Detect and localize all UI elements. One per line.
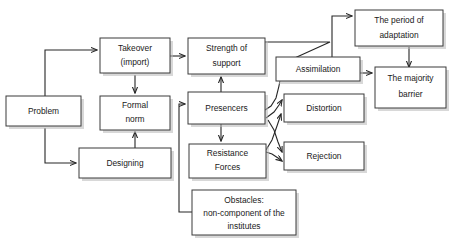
edge-presencers-distortion — [266, 100, 282, 118]
node-takeover-label-2: (import) — [121, 57, 150, 67]
node-formal-norm-label-2: norm — [125, 114, 144, 124]
node-presencers-label-1: Presencers — [205, 103, 247, 113]
node-presencers[interactable]: Presencers — [188, 92, 268, 127]
node-takeover[interactable]: Takeover (import) — [100, 38, 173, 76]
node-strength-of-support[interactable]: Strength of support — [188, 38, 268, 77]
node-obstacles-label-2: non-component of the — [203, 208, 285, 218]
node-period-of-adaptation[interactable]: The period of adaptation — [355, 10, 446, 49]
node-formal-norm[interactable]: Formal norm — [100, 96, 173, 133]
node-assimilation[interactable]: Assimilation — [276, 57, 363, 84]
node-obstacles-label-1: Obstacles: — [224, 195, 264, 205]
node-rejection-label-1: Rejection — [307, 151, 342, 161]
edge-assimilation-period — [332, 16, 352, 57]
node-rejection[interactable]: Rejection — [284, 142, 367, 173]
node-majority-label-1: The majority — [387, 73, 434, 83]
node-designing[interactable]: Designing — [79, 148, 174, 181]
node-strength-label-2: support — [213, 58, 242, 68]
node-strength-label-1: Strength of — [206, 43, 248, 53]
node-distortion[interactable]: Distortion — [284, 94, 367, 125]
edge-problem-designing — [45, 128, 76, 163]
node-takeover-label-1: Takeover — [118, 43, 152, 53]
flowchart-svg: Problem Takeover (import) Formal norm De… — [0, 0, 452, 243]
node-distortion-label-1: Distortion — [306, 103, 342, 113]
node-assimilation-label-1: Assimilation — [296, 64, 341, 74]
node-majority-barrier[interactable]: The majority barrier — [375, 67, 449, 111]
node-majority-label-2: barrier — [398, 89, 422, 99]
node-formal-norm-label-1: Formal — [122, 100, 148, 110]
node-obstacles-label-3: institutes — [227, 221, 260, 231]
node-problem[interactable]: Problem — [6, 96, 84, 129]
node-resistance-label-1: Resistance — [207, 148, 249, 158]
flowchart-canvas: Problem Takeover (import) Formal norm De… — [0, 0, 452, 243]
edge-problem-takeover — [45, 50, 97, 96]
node-problem-label-1: Problem — [28, 106, 59, 116]
node-period-label-2: adaptation — [379, 30, 418, 40]
node-obstacles[interactable]: Obstacles: non-component of the institut… — [192, 190, 299, 238]
node-period-label-1: The period of — [374, 15, 424, 25]
edge-presencers-rejection — [268, 120, 282, 152]
node-designing-label-1: Designing — [106, 158, 144, 168]
node-resistance-label-2: Forces — [215, 162, 241, 172]
node-resistance-forces[interactable]: Resistance Forces — [189, 144, 269, 181]
